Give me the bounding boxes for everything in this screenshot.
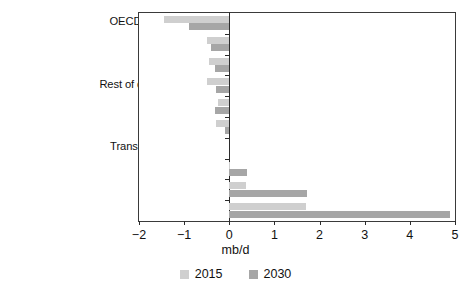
bar-2015-middle-east (229, 162, 230, 169)
legend-swatch-icon (249, 270, 258, 279)
bar-2030-china (229, 211, 450, 218)
bar-2015-china (229, 203, 306, 210)
x-tick-mark (274, 221, 275, 225)
legend-label: 2015 (195, 268, 223, 281)
x-tick-label: 1 (254, 228, 294, 242)
bar-2030-latin-america (225, 127, 230, 134)
x-tick-mark (365, 221, 366, 225)
legend-item: 2030 (249, 268, 292, 281)
legend-label: 2030 (264, 268, 292, 281)
bar-2015-india (229, 182, 246, 189)
x-tick-mark (455, 221, 456, 225)
category-tick-mark (225, 117, 229, 118)
bar-2015-oecd-pacific (209, 58, 229, 65)
legend-item: 2015 (180, 268, 223, 281)
bar-2030-middle-east (229, 169, 247, 176)
category-tick-mark (225, 96, 229, 97)
x-tick-label: 0 (209, 228, 249, 242)
bar-2030-rest-of-developing-asia (216, 86, 230, 93)
category-tick-mark (225, 34, 229, 35)
x-tick-mark (229, 221, 230, 225)
category-tick-mark (225, 200, 229, 201)
category-tick-mark (225, 138, 229, 139)
x-tick-label: 5 (435, 228, 471, 242)
bar-2030-oecd-europe (211, 44, 229, 51)
x-tick-label: 3 (345, 228, 385, 242)
bar-2030-oecd-pacific (215, 65, 229, 72)
bar-2015-oecd-europe (207, 37, 230, 44)
bar-2015-rest-of-developing-asia (207, 78, 230, 85)
bar-2015-latin-america (216, 120, 230, 127)
x-tick-mark (320, 221, 321, 225)
x-tick-mark (139, 221, 140, 225)
category-tick-mark (225, 55, 229, 56)
x-axis-title: mb/d (0, 243, 471, 257)
x-tick-mark (184, 221, 185, 225)
category-tick-mark (225, 179, 229, 180)
x-tick-label: 4 (390, 228, 430, 242)
category-tick-mark (225, 75, 229, 76)
bar-2030-oecd-north-america (189, 23, 230, 30)
bars-container (139, 13, 455, 221)
horizontal-bar-chart: OECD North AmericaOECD EuropeOECD Pacifi… (0, 0, 471, 295)
legend-swatch-icon (180, 270, 189, 279)
x-tick-label: −2 (119, 228, 159, 242)
bar-2030-africa (215, 107, 229, 114)
x-tick-label: 2 (300, 228, 340, 242)
bar-2030-india (229, 190, 307, 197)
chart-legend: 20152030 (0, 268, 471, 281)
x-tick-mark (410, 221, 411, 225)
bar-2015-africa (218, 99, 229, 106)
bar-2015-oecd-north-america (164, 16, 229, 23)
x-tick-label: −1 (164, 228, 204, 242)
category-tick-mark (225, 159, 229, 160)
